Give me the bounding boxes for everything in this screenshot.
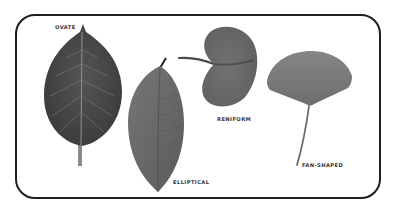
label-ovate: OVATE <box>55 25 76 30</box>
elliptical-leaf <box>128 58 184 192</box>
label-fan-shaped: FAN-SHAPED <box>302 163 343 168</box>
fan-shaped-leaf <box>267 51 352 165</box>
ovate-leaf <box>44 24 122 166</box>
leaf-illustrations <box>0 0 394 208</box>
reniform-leaf <box>179 27 257 107</box>
label-elliptical: ELLIPTICAL <box>173 180 209 185</box>
label-reniform: RENIFORM <box>217 117 251 122</box>
